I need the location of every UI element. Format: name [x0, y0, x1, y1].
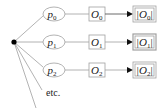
root-node-dot — [11, 39, 16, 44]
branch-row-1: p1 O1 |O1| — [43, 34, 156, 50]
root-edges — [14, 16, 43, 108]
edge-root-p0 — [14, 16, 43, 42]
norm-label-0: |O0| — [136, 8, 153, 22]
branch-row-0: p0 O0 |O0| — [43, 6, 156, 22]
arrowhead-icon — [127, 67, 133, 73]
branch-row-2: p2 O2 |O2| — [43, 62, 156, 78]
norm-label-2: |O2| — [136, 64, 153, 78]
arrowhead-icon — [127, 11, 133, 17]
etc-label: etc. — [46, 87, 60, 98]
diagram-canvas: p0 O0 |O0| p1 O1 |O1| p2 O2 |O2| etc. — [0, 0, 167, 108]
arrowhead-icon — [127, 39, 133, 45]
norm-label-1: |O1| — [136, 36, 153, 50]
